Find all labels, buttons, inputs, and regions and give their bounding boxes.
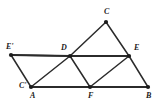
segment-F-E xyxy=(90,56,129,87)
segment-D-F xyxy=(70,56,90,87)
segment-A-D xyxy=(31,56,70,87)
vertex-label-B: B xyxy=(146,92,151,100)
geometry-figure: E'DECC'AFB xyxy=(0,0,158,106)
vertex-label-E: E xyxy=(134,44,139,52)
segment-E-B xyxy=(129,56,148,87)
vertex-label-C: C xyxy=(104,8,109,16)
vertex-label-Eprime: E' xyxy=(6,43,14,51)
vertex-label-Cprime: C' xyxy=(19,82,27,90)
vertex-label-F: F xyxy=(88,92,93,100)
segment-Eprime-D xyxy=(11,55,70,56)
vertex-dot-Cprime xyxy=(29,85,33,89)
segment-C-E xyxy=(106,22,129,56)
vertex-label-D: D xyxy=(61,44,67,52)
vertex-dot-B xyxy=(146,85,150,89)
vertex-label-A: A xyxy=(30,92,35,100)
segment-D-C xyxy=(70,22,106,56)
geometry-canvas xyxy=(0,0,158,106)
vertex-dot-D xyxy=(68,54,72,58)
segments-layer xyxy=(11,22,148,87)
vertex-dot-E xyxy=(127,54,131,58)
vertex-dot-Eprime xyxy=(9,53,13,57)
vertex-dot-C xyxy=(104,20,108,24)
vertex-dot-F xyxy=(88,85,92,89)
